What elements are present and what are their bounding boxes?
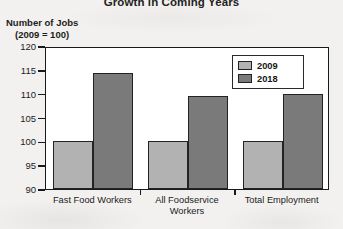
x-axis-tick-label-line: Fast Food Workers	[45, 195, 140, 206]
bar-2018-2	[283, 94, 323, 189]
x-axis-tick-label-line: Workers	[140, 206, 235, 217]
y-axis-label-line2: (2009 = 100)	[6, 29, 78, 41]
y-axis-tick-label: 95	[0, 160, 36, 171]
bar-2009-0	[53, 141, 93, 189]
x-axis-tick-label-line: All Foodservice	[140, 195, 235, 206]
bar-2009-1	[148, 141, 188, 189]
x-axis-tick-label-line: Total Employment	[234, 195, 329, 206]
chart-title: Growth in Coming Years	[0, 0, 343, 8]
chart-figure: Growth in Coming Years Number of Jobs (2…	[0, 0, 343, 229]
y-axis-tick-label: 105	[0, 113, 36, 124]
y-axis-tick	[38, 70, 45, 72]
y-axis-tick	[38, 46, 45, 48]
y-axis-tick	[38, 142, 45, 144]
legend-item-label: 2018	[257, 74, 278, 84]
x-axis-tick-label: Total Employment	[234, 195, 329, 206]
legend-swatch-icon	[238, 74, 252, 83]
y-axis-label-line1: Number of Jobs	[6, 17, 78, 28]
legend-item-2018: 2018	[238, 72, 299, 85]
y-axis-tick-label: 110	[0, 89, 36, 100]
y-axis-tick	[38, 94, 45, 96]
x-axis-tick-label: Fast Food Workers	[45, 195, 140, 206]
x-axis-tick-label: All FoodserviceWorkers	[140, 195, 235, 217]
chart-legend: 20092018	[232, 55, 304, 89]
y-axis-tick	[38, 189, 45, 191]
y-axis-tick-label: 100	[0, 136, 36, 147]
y-axis-tick-label: 90	[0, 184, 36, 195]
legend-item-label: 2009	[257, 61, 278, 71]
legend-item-2009: 2009	[238, 59, 299, 72]
y-axis-label: Number of Jobs (2009 = 100)	[6, 17, 78, 40]
y-axis-tick-label: 115	[0, 65, 36, 76]
y-axis-tick	[38, 118, 45, 120]
y-axis-tick-label: 120	[0, 41, 36, 52]
bar-2018-0	[93, 73, 133, 189]
legend-swatch-icon	[238, 61, 252, 70]
bar-2018-1	[188, 96, 228, 189]
y-axis-tick	[38, 165, 45, 167]
bar-2009-2	[243, 141, 283, 189]
